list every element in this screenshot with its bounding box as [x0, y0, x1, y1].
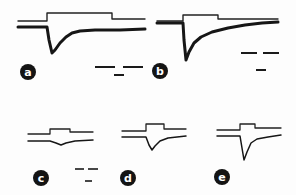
traces-canvas: abcde — [0, 0, 296, 195]
panel-label-text: b — [156, 65, 164, 78]
command-step-trace — [122, 124, 186, 131]
panel-c: c — [28, 129, 98, 186]
panel-e: e — [214, 124, 281, 185]
command-step-trace — [28, 129, 93, 134]
panel-label-text: e — [218, 171, 225, 184]
current-response-trace — [122, 136, 186, 150]
current-response-trace — [28, 140, 93, 145]
panel-b: b — [152, 15, 279, 79]
panel-d: d — [120, 124, 186, 186]
current-response-trace — [157, 22, 278, 60]
current-response-trace — [18, 27, 145, 53]
panel-label-text: c — [38, 172, 45, 185]
panel-a: a — [18, 13, 145, 80]
figure: abcde a b c d e — [0, 0, 296, 195]
current-response-trace — [217, 135, 281, 160]
panel-label-text: a — [24, 66, 31, 79]
panel-label-text: d — [124, 172, 132, 185]
command-step-trace — [157, 15, 278, 21]
command-step-trace — [217, 124, 281, 130]
command-step-trace — [18, 13, 145, 21]
